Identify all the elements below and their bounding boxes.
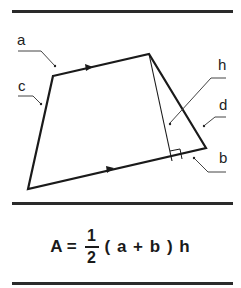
- fraction-bar: [85, 246, 99, 248]
- formula-lhs: A: [50, 237, 62, 257]
- area-formula: A = 1 2 ( a + b ) h: [0, 222, 241, 272]
- formula-rest: ( a + b ) h: [105, 237, 191, 257]
- middle-rule: [12, 202, 233, 205]
- leader-c: [18, 96, 41, 104]
- formula-equals: =: [67, 237, 77, 257]
- formula-fraction: 1 2: [85, 227, 99, 267]
- fraction-numerator: 1: [87, 227, 96, 245]
- trapezoid-shape: [28, 54, 206, 189]
- label-h: h: [218, 56, 226, 73]
- label-b: b: [219, 149, 227, 166]
- fraction-denominator: 2: [87, 249, 96, 267]
- leader-d: [205, 117, 226, 125]
- label-c: c: [18, 77, 26, 94]
- height-line: [149, 54, 172, 161]
- label-d: d: [219, 96, 227, 113]
- bottom-rule: [12, 282, 233, 285]
- leader-a: [18, 51, 55, 66]
- label-a: a: [17, 31, 26, 48]
- parallel-arrow-top-icon: [85, 64, 93, 71]
